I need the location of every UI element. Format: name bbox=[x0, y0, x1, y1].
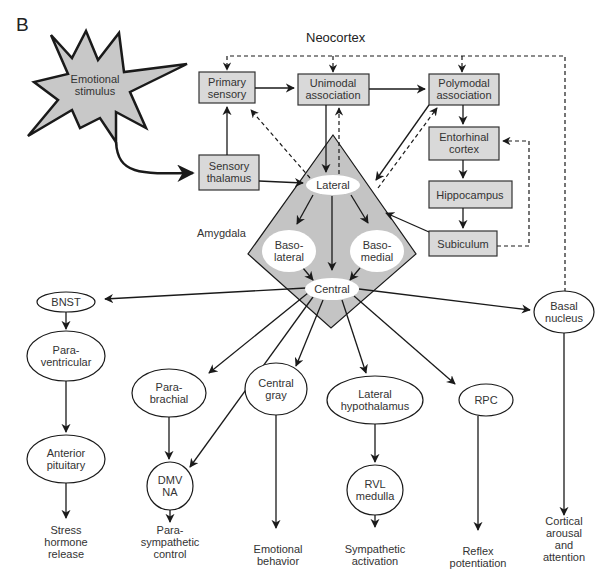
dmv-na-label: DMV NA bbox=[158, 474, 182, 498]
parabrachial-label: Para- brachial bbox=[150, 381, 189, 405]
panel-letter: B bbox=[16, 14, 29, 36]
central-gray-label: Central gray bbox=[258, 377, 293, 401]
rvl-medulla-label: RVL medulla bbox=[356, 478, 395, 502]
basolateral-nucleus-label: Baso- lateral bbox=[274, 239, 304, 263]
stress-hormone-output: Stress hormone release bbox=[44, 524, 87, 560]
central-nucleus-label: Central bbox=[314, 283, 349, 295]
anterior-pituitary-label: Anterior pituitary bbox=[47, 447, 86, 471]
downstream-arrows bbox=[66, 312, 564, 530]
target-nuclei bbox=[27, 291, 594, 515]
emotional-behavior-output: Emotional behavior bbox=[254, 543, 303, 567]
parasympathetic-output: Para- sympathetic control bbox=[141, 524, 200, 560]
amygdala-label: Amygdala bbox=[197, 227, 246, 239]
bnst-label: BNST bbox=[51, 296, 80, 308]
cortical-arousal-output: Cortical arousal and attention bbox=[540, 515, 589, 563]
emotional-stimulus-label: Emotional stimulus bbox=[71, 73, 120, 97]
sympathetic-output: Sympathetic activation bbox=[345, 543, 406, 567]
stimulus-to-thalamus-arrow bbox=[116, 142, 193, 173]
basomedial-nucleus-label: Baso- medial bbox=[361, 239, 393, 263]
polymodal-association-label: Polymodal association bbox=[436, 77, 491, 101]
entorhinal-cortex-label: Entorhinal cortex bbox=[439, 131, 489, 155]
sensory-thalamus-label: Sensory thalamus bbox=[207, 160, 252, 184]
lateral-nucleus-label: Lateral bbox=[316, 179, 350, 191]
basal-nucleus-label: Basal nucleus bbox=[545, 300, 583, 324]
unimodal-association-label: Unimodal association bbox=[305, 77, 360, 101]
subiculum-label: Subiculum bbox=[437, 238, 488, 250]
paraventricular-label: Para- ventricular bbox=[41, 344, 92, 368]
rpc-label: RPC bbox=[474, 394, 497, 406]
hippocampus-label: Hippocampus bbox=[436, 189, 503, 201]
lateral-hypothalamus-label: Lateral hypothalamus bbox=[341, 388, 410, 412]
reflex-potentiation-output: Reflex potentiation bbox=[450, 545, 507, 569]
primary-sensory-label: Primary sensory bbox=[208, 76, 247, 100]
neocortex-heading: Neocortex bbox=[306, 30, 365, 45]
